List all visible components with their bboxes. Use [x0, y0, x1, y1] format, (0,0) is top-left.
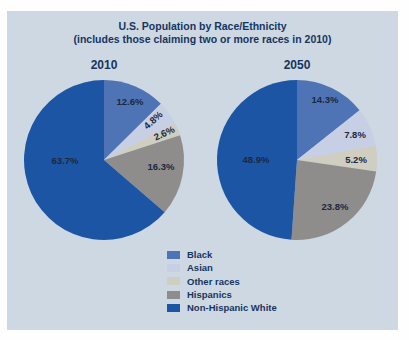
legend-swatch-icon [167, 291, 180, 299]
slice-label-2050-3: 23.8% [322, 201, 349, 212]
slice-label-2050-4: 48.9% [243, 154, 270, 165]
slice-label-2010-0: 12.6% [117, 96, 144, 107]
legend-swatch-icon [167, 304, 180, 312]
legend-swatch-icon [167, 251, 180, 259]
legend-item-asian: Asian [167, 261, 277, 274]
legend-label: Non-Hispanic White [187, 302, 277, 313]
slice-label-2050-0: 14.3% [312, 94, 339, 105]
slice-label-2010-3: 16.3% [148, 161, 175, 172]
legend-label: Other races [187, 276, 240, 287]
legend-item-other-races: Other races [167, 275, 277, 288]
legend-label: Hispanics [187, 289, 232, 300]
legend-item-hispanics: Hispanics [167, 288, 277, 301]
legend-swatch-icon [167, 264, 180, 272]
legend-label: Asian [187, 262, 213, 273]
legend-item-non-hispanic-white: Non-Hispanic White [167, 301, 277, 314]
slice-label-2050-2: 5.2% [345, 154, 367, 165]
slice-label-2050-1: 7.8% [344, 129, 366, 140]
slice-label-2010-4: 63.7% [52, 155, 79, 166]
legend-item-black: Black [167, 248, 277, 261]
legend-swatch-icon [167, 277, 180, 285]
legend: BlackAsianOther racesHispanicsNon-Hispan… [167, 248, 277, 314]
legend-label: Black [187, 249, 212, 260]
figure: U.S. Population by Race/Ethnicity (inclu… [0, 0, 409, 340]
